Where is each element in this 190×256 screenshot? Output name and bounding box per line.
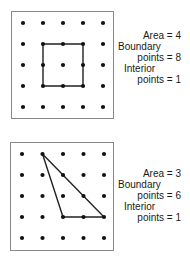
grid-peg: [102, 152, 106, 156]
grid-peg: [61, 42, 65, 46]
grid-peg: [40, 152, 44, 156]
grid-peg: [20, 173, 24, 177]
grid-peg: [20, 152, 24, 156]
grid-peg: [21, 84, 25, 88]
grid-peg: [61, 105, 65, 109]
area-label: Area = 3: [118, 168, 181, 179]
grid-peg: [101, 84, 105, 88]
grid-peg: [102, 173, 106, 177]
grid-peg: [81, 236, 85, 240]
grid-peg: [101, 63, 105, 67]
grid-peg: [81, 42, 85, 46]
grid-peg: [41, 84, 45, 88]
triangle-polygon: [43, 154, 105, 217]
grid-peg: [21, 63, 25, 67]
grid-peg: [81, 215, 85, 219]
grid-peg: [81, 152, 85, 156]
grid-peg: [41, 42, 45, 46]
grid-peg: [61, 152, 65, 156]
geoboard-grid-square: [0, 0, 120, 128]
grid-peg: [81, 194, 85, 198]
geoboard-triangle-figure: Area = 3 Boundary points = 6 Interior po…: [0, 131, 190, 256]
interior-value: points = 1: [118, 74, 181, 85]
grid-peg: [101, 105, 105, 109]
grid-peg: [61, 63, 65, 67]
grid-peg: [61, 173, 65, 177]
grid-peg: [40, 236, 44, 240]
boundary-label: Boundary: [118, 41, 181, 52]
triangle-caption: Area = 3 Boundary points = 6 Interior po…: [118, 168, 181, 223]
grid-peg: [61, 84, 65, 88]
grid-peg: [21, 21, 25, 25]
grid-peg: [81, 173, 85, 177]
grid-peg: [101, 42, 105, 46]
grid-peg: [102, 215, 106, 219]
grid-peg: [61, 215, 65, 219]
grid-peg: [61, 236, 65, 240]
grid-peg: [41, 21, 45, 25]
area-label: Area = 4: [118, 30, 181, 41]
grid-peg: [81, 105, 85, 109]
grid-peg: [61, 194, 65, 198]
grid-peg: [41, 63, 45, 67]
grid-peg: [20, 194, 24, 198]
interior-label: Interior: [118, 63, 181, 74]
square-caption: Area = 4 Boundary points = 8 Interior po…: [118, 30, 181, 85]
grid-peg: [21, 105, 25, 109]
geoboard-square-figure: Area = 4 Boundary points = 8 Interior po…: [0, 0, 190, 128]
grid-peg: [81, 63, 85, 67]
boundary-value: points = 8: [118, 52, 181, 63]
boundary-value: points = 6: [118, 190, 181, 201]
grid-peg: [81, 84, 85, 88]
grid-peg: [102, 236, 106, 240]
grid-peg: [40, 173, 44, 177]
grid-peg: [21, 42, 25, 46]
interior-label: Interior: [118, 201, 181, 212]
grid-peg: [41, 105, 45, 109]
grid-peg: [20, 215, 24, 219]
grid-peg: [102, 194, 106, 198]
interior-value: points = 1: [118, 212, 181, 223]
grid-peg: [61, 21, 65, 25]
grid-peg: [20, 236, 24, 240]
boundary-label: Boundary: [118, 179, 181, 190]
grid-peg: [101, 21, 105, 25]
grid-peg: [81, 21, 85, 25]
grid-peg: [40, 215, 44, 219]
grid-peg: [40, 194, 44, 198]
geoboard-grid-triangle: [0, 131, 120, 256]
